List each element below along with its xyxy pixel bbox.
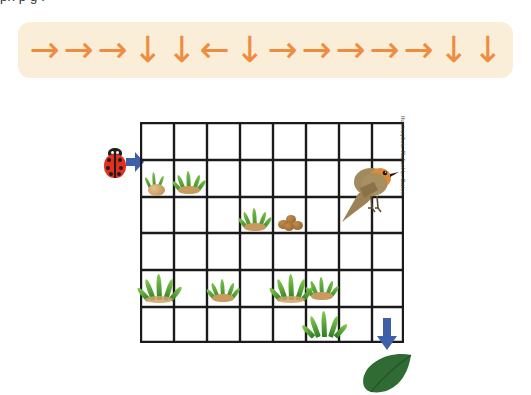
arrow-right: → — [28, 32, 62, 68]
arrow-down: ↓ — [130, 32, 164, 68]
ladybug-spot — [117, 172, 121, 176]
arrow-sequence-row: →→→↓↓←↓→→→→→↓↓ — [18, 22, 513, 78]
arrow-right: → — [368, 32, 402, 68]
ladybug-spot — [107, 158, 111, 162]
ladybug-wing-split — [114, 154, 116, 178]
worksheet-page: pri p g . →→→↓↓←↓→→→→→↓↓ — [0, 0, 531, 395]
arrow-right: → — [334, 32, 368, 68]
arrow-right: → — [96, 32, 130, 68]
ladybug-spot — [109, 172, 113, 176]
arrow-right: → — [266, 32, 300, 68]
clipped-heading-text: pri p g . — [0, 0, 531, 5]
ladybug-spot — [118, 158, 122, 162]
ladybug-eye-left — [111, 151, 114, 154]
arrow-down: ↓ — [164, 32, 198, 68]
arrow-down: ↓ — [232, 32, 266, 68]
exit-arrow-icon — [377, 318, 397, 350]
arrow-right: → — [300, 32, 334, 68]
arrow-down: ↓ — [436, 32, 470, 68]
leaf-icon — [361, 353, 413, 393]
ladybug-head — [108, 148, 122, 158]
ladybug-icon — [104, 148, 126, 178]
ladybug-spot — [106, 166, 110, 170]
arrow-sequence-strip: →→→↓↓←↓→→→→→↓↓ — [18, 22, 513, 78]
arrow-left: ← — [198, 32, 232, 68]
ladybug-spot — [119, 166, 123, 170]
grid-lines — [140, 122, 404, 343]
arrow-down: ↓ — [470, 32, 504, 68]
illustration-credit: Ilustrações: Rafael L. Gaion — [397, 116, 409, 226]
ladybug-eye-right — [116, 151, 119, 154]
game-grid — [140, 122, 404, 343]
arrow-right: → — [62, 32, 96, 68]
arrow-right: → — [402, 32, 436, 68]
ladybug-body — [104, 154, 126, 178]
